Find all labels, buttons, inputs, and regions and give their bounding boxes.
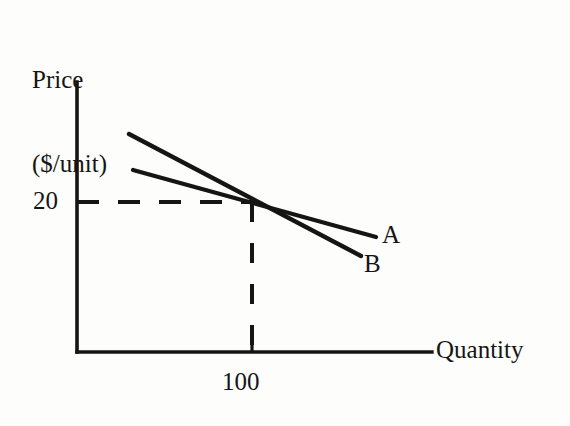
x-axis-tick-label-100: 100 [222, 368, 260, 396]
demand-curve-b [129, 134, 361, 256]
y-axis-title-line-2: ($/unit) [32, 150, 107, 178]
economics-demand-curve-figure: Price ($/unit) 20 100 Quantity A B [0, 0, 570, 426]
y-axis-tick-label-20: 20 [33, 187, 58, 215]
curve-label-a: A [382, 221, 400, 249]
x-axis-title: Quantity [436, 336, 524, 364]
curve-label-b: B [364, 250, 381, 278]
y-axis-title-line-1: Price [32, 66, 107, 94]
